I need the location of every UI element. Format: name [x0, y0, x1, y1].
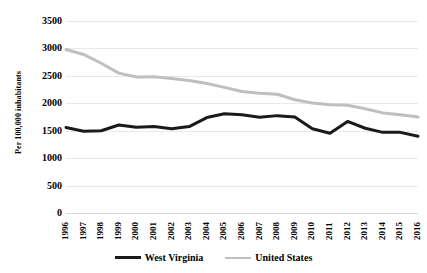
legend-label: United States: [255, 252, 312, 263]
legend-swatch-icon: [225, 257, 251, 259]
x-tick-2002: 2002: [167, 200, 176, 240]
x-tick-2011: 2011: [325, 200, 334, 240]
x-tick-2014: 2014: [378, 200, 387, 240]
y-axis-tick-labels: 3500300025002000150010005000: [20, 21, 62, 213]
y-tick-2000: 2000: [20, 98, 62, 108]
x-tick-2008: 2008: [272, 200, 281, 240]
x-axis-tick-labels: 1996199719981999200020012002200320042005…: [66, 215, 418, 255]
x-tick-2001: 2001: [149, 200, 158, 240]
x-tick-2004: 2004: [202, 200, 211, 240]
x-tick-2015: 2015: [395, 200, 404, 240]
x-tick-2000: 2000: [131, 200, 140, 240]
x-tick-2003: 2003: [184, 200, 193, 240]
x-tick-1999: 1999: [114, 200, 123, 240]
x-tick-2007: 2007: [255, 200, 264, 240]
chart-legend: West VirginiaUnited States: [0, 252, 427, 263]
y-tick-500: 500: [20, 181, 62, 191]
x-tick-2005: 2005: [219, 200, 228, 240]
legend-label: West Virginia: [145, 252, 204, 263]
y-tick-1000: 1000: [20, 153, 62, 163]
x-tick-1997: 1997: [79, 200, 88, 240]
series-line-west-virginia: [66, 114, 418, 136]
x-tick-1998: 1998: [96, 200, 105, 240]
y-tick-2500: 2500: [20, 71, 62, 81]
legend-entry-west-virginia[interactable]: West Virginia: [115, 252, 204, 263]
x-tick-2010: 2010: [307, 200, 316, 240]
plot-area: [66, 21, 418, 213]
chart-title: [0, 0, 427, 2]
y-tick-0: 0: [20, 208, 62, 218]
series-line-united-states: [66, 50, 418, 117]
y-tick-3500: 3500: [20, 16, 62, 26]
x-tick-2013: 2013: [360, 200, 369, 240]
x-tick-2016: 2016: [413, 200, 422, 240]
x-tick-2006: 2006: [237, 200, 246, 240]
x-tick-2009: 2009: [290, 200, 299, 240]
legend-entry-united-states[interactable]: United States: [225, 252, 312, 263]
property-crime-rate-line-chart: Per 100,000 inhabitants 3500300025002000…: [0, 0, 427, 273]
y-tick-3000: 3000: [20, 43, 62, 53]
y-tick-1500: 1500: [20, 126, 62, 136]
series-layer: [66, 21, 418, 213]
x-tick-1996: 1996: [61, 200, 70, 240]
legend-swatch-icon: [115, 256, 141, 259]
x-tick-2012: 2012: [343, 200, 352, 240]
